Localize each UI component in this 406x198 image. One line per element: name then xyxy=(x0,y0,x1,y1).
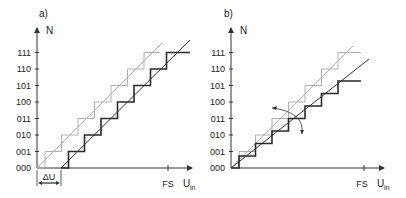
svg-text:101: 101 xyxy=(210,81,225,91)
panel-a-offset-label: ΔU xyxy=(43,172,56,182)
svg-text:110: 110 xyxy=(17,64,31,74)
panel-a-actual-staircase xyxy=(61,53,190,169)
panel-a-y-ticks: 000 001 010 011 100 101 110 111 xyxy=(16,48,39,174)
svg-text:101: 101 xyxy=(16,81,31,91)
panel-b-actual-line xyxy=(231,59,369,168)
panel-a-ideal-line xyxy=(37,43,162,168)
panel-b-actual-staircase xyxy=(231,81,361,168)
svg-text:001: 001 xyxy=(210,147,225,157)
panel-b-gain-error: b) N 000 001 010 011 100 101 110 111 xyxy=(210,8,390,191)
panel-a-ideal-staircase xyxy=(37,53,160,169)
svg-text:100: 100 xyxy=(16,97,31,107)
panel-a-fs-label: FS xyxy=(162,179,174,189)
svg-text:111: 111 xyxy=(17,48,31,58)
panel-a-actual-line xyxy=(61,40,190,168)
svg-text:010: 010 xyxy=(210,130,225,140)
svg-text:in: in xyxy=(384,184,390,191)
panel-b-fs-label: FS xyxy=(356,179,368,189)
svg-text:000: 000 xyxy=(16,163,31,173)
panel-b-y-ticks: 000 001 010 011 100 101 110 111 xyxy=(210,48,233,174)
svg-text:111: 111 xyxy=(211,48,225,58)
panel-a-offset-error: a) N 000 001 010 011 100 101 110 111 xyxy=(16,8,196,191)
panel-a-y-label: N xyxy=(46,25,53,36)
svg-text:010: 010 xyxy=(16,130,31,140)
panel-b-label: b) xyxy=(224,8,233,19)
panel-b-y-label: N xyxy=(240,25,247,36)
svg-text:001: 001 xyxy=(16,147,31,157)
svg-text:110: 110 xyxy=(211,64,225,74)
panel-b-ideal-staircase xyxy=(231,53,361,169)
adc-error-diagram: a) N 000 001 010 011 100 101 110 111 xyxy=(0,0,406,198)
svg-text:100: 100 xyxy=(210,97,225,107)
svg-text:in: in xyxy=(190,184,196,191)
svg-text:011: 011 xyxy=(211,114,225,124)
panel-b-ideal-line xyxy=(231,46,353,168)
svg-text:000: 000 xyxy=(210,163,225,173)
svg-text:011: 011 xyxy=(17,114,31,124)
panel-a-label: a) xyxy=(39,8,48,19)
